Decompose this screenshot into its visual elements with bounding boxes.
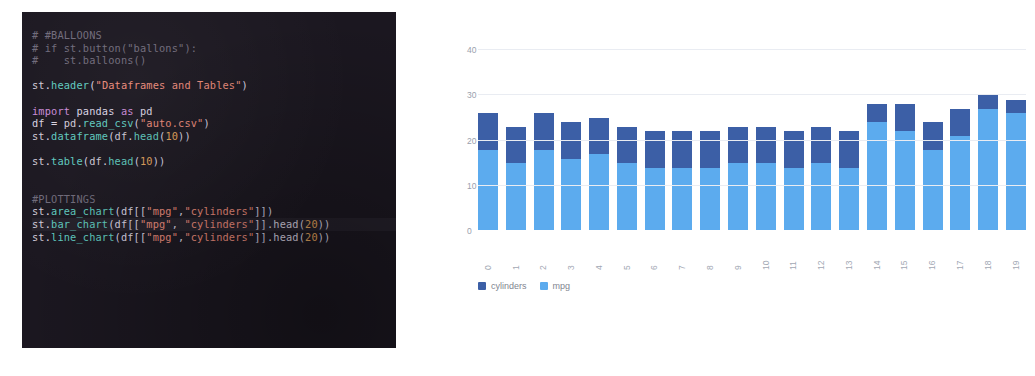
chart-bar-segment-mpg[interactable]	[756, 163, 776, 231]
chart-bar[interactable]	[534, 50, 554, 231]
code-editor-panel: # #BALLOONS# if st.button("ballons"):# s…	[22, 12, 396, 348]
chart-bar-segment-mpg[interactable]	[950, 136, 970, 231]
chart-bar-segment-cylinders[interactable]	[589, 118, 609, 154]
chart-bar[interactable]	[728, 50, 748, 231]
chart-bar-segment-cylinders[interactable]	[700, 131, 720, 167]
chart-bar-segment-cylinders[interactable]	[534, 113, 554, 149]
chart-plot-area: 010203040	[478, 50, 1026, 231]
code-line	[32, 168, 396, 181]
chart-bar-segment-cylinders[interactable]	[506, 127, 526, 163]
chart-bar[interactable]	[839, 50, 859, 231]
chart-bar-segment-cylinders[interactable]	[478, 113, 498, 149]
bar-chart: 010203040 012345678910111213141516171819…	[420, 18, 1030, 318]
chart-x-tick: 10	[756, 234, 776, 270]
chart-bar-segment-cylinders[interactable]	[645, 131, 665, 167]
chart-bar-segment-cylinders[interactable]	[617, 127, 637, 163]
chart-bar-segment-mpg[interactable]	[561, 159, 581, 231]
chart-bar-segment-mpg[interactable]	[700, 168, 720, 231]
chart-x-tick: 2	[534, 234, 554, 270]
chart-x-tick: 5	[617, 234, 637, 270]
chart-x-tick-label: 0	[484, 234, 493, 270]
chart-bar[interactable]	[1006, 50, 1026, 231]
chart-bar[interactable]	[923, 50, 943, 231]
chart-x-tick-label: 4	[595, 234, 604, 270]
chart-x-tick: 16	[923, 234, 943, 270]
chart-bar-segment-mpg[interactable]	[839, 168, 859, 231]
chart-x-tick-label: 2	[539, 234, 548, 270]
chart-x-tick: 11	[784, 234, 804, 270]
chart-bar[interactable]	[950, 50, 970, 231]
chart-x-tick: 14	[867, 234, 887, 270]
chart-bar-segment-mpg[interactable]	[923, 150, 943, 231]
chart-bar-segment-mpg[interactable]	[811, 163, 831, 231]
chart-bar-segment-cylinders[interactable]	[561, 122, 581, 158]
chart-bar[interactable]	[867, 50, 887, 231]
chart-bar-segment-cylinders[interactable]	[839, 131, 859, 167]
chart-y-tick-label: 20	[467, 136, 468, 146]
chart-bar[interactable]	[700, 50, 720, 231]
chart-legend-swatch	[478, 282, 486, 290]
chart-bar[interactable]	[895, 50, 915, 231]
chart-bar-segment-cylinders[interactable]	[895, 104, 915, 131]
chart-x-tick: 6	[645, 234, 665, 270]
chart-gridline	[478, 140, 1026, 141]
chart-x-tick: 1	[506, 234, 526, 270]
code-line: st.table(df.head(10))	[32, 155, 396, 168]
code-line: # if st.button("ballons"):	[32, 42, 396, 55]
chart-y-tick-label: 30	[467, 90, 468, 100]
chart-bar-segment-cylinders[interactable]	[672, 131, 692, 167]
chart-bar-segment-mpg[interactable]	[672, 168, 692, 231]
chart-gridline	[478, 94, 1026, 95]
chart-legend-item-mpg[interactable]: mpg	[540, 281, 571, 291]
chart-bar-segment-mpg[interactable]	[645, 168, 665, 231]
chart-bar[interactable]	[478, 50, 498, 231]
chart-bar[interactable]	[811, 50, 831, 231]
chart-x-tick: 12	[811, 234, 831, 270]
chart-bar-segment-mpg[interactable]	[589, 154, 609, 231]
chart-bar[interactable]	[672, 50, 692, 231]
code-line: df = pd.read_csv("auto.csv")	[32, 117, 396, 130]
chart-x-tick: 3	[561, 234, 581, 270]
code-line: st.dataframe(df.head(10))	[32, 130, 396, 143]
chart-legend-label: mpg	[553, 281, 571, 291]
chart-bar-segment-cylinders[interactable]	[950, 109, 970, 136]
chart-bar-segment-mpg[interactable]	[895, 131, 915, 231]
chart-bar-segment-cylinders[interactable]	[867, 104, 887, 122]
chart-bar[interactable]	[978, 50, 998, 231]
chart-x-tick: 13	[839, 234, 859, 270]
chart-bar-segment-cylinders[interactable]	[811, 127, 831, 163]
chart-bar-segment-mpg[interactable]	[478, 150, 498, 231]
chart-bar-segment-mpg[interactable]	[1006, 113, 1026, 231]
chart-bar-segment-cylinders[interactable]	[978, 95, 998, 109]
code-line	[32, 67, 396, 80]
chart-bar-segment-cylinders[interactable]	[923, 122, 943, 149]
chart-bar-segment-mpg[interactable]	[784, 168, 804, 231]
chart-x-tick: 0	[478, 234, 498, 270]
chart-bar[interactable]	[561, 50, 581, 231]
chart-bar[interactable]	[645, 50, 665, 231]
chart-x-tick-label: 11	[789, 234, 798, 270]
code-line: # #BALLOONS	[32, 29, 396, 42]
chart-bar-segment-cylinders[interactable]	[756, 127, 776, 163]
code-text: # #BALLOONS# if st.button("ballons"):# s…	[32, 29, 396, 243]
chart-bar-segment-mpg[interactable]	[728, 163, 748, 231]
chart-legend-item-cylinders[interactable]: cylinders	[478, 281, 527, 291]
chart-bar-segment-cylinders[interactable]	[784, 131, 804, 167]
chart-bar[interactable]	[589, 50, 609, 231]
chart-y-tick-label: 10	[467, 181, 468, 191]
chart-x-tick-label: 8	[706, 234, 715, 270]
chart-bar-segment-mpg[interactable]	[617, 163, 637, 231]
chart-bar-segment-mpg[interactable]	[534, 150, 554, 231]
chart-gridline	[478, 230, 1026, 231]
code-line: st.bar_chart(df[["mpg", "cylinders"]].he…	[32, 218, 396, 231]
chart-bar-segment-cylinders[interactable]	[728, 127, 748, 163]
chart-bar[interactable]	[784, 50, 804, 231]
chart-x-tick: 7	[672, 234, 692, 270]
chart-x-axis: 012345678910111213141516171819	[478, 234, 1026, 270]
chart-bar[interactable]	[506, 50, 526, 231]
chart-bar-segment-mpg[interactable]	[978, 109, 998, 231]
chart-bar[interactable]	[756, 50, 776, 231]
chart-bar[interactable]	[617, 50, 637, 231]
chart-bar-segment-cylinders[interactable]	[1006, 100, 1026, 114]
chart-bar-segment-mpg[interactable]	[506, 163, 526, 231]
